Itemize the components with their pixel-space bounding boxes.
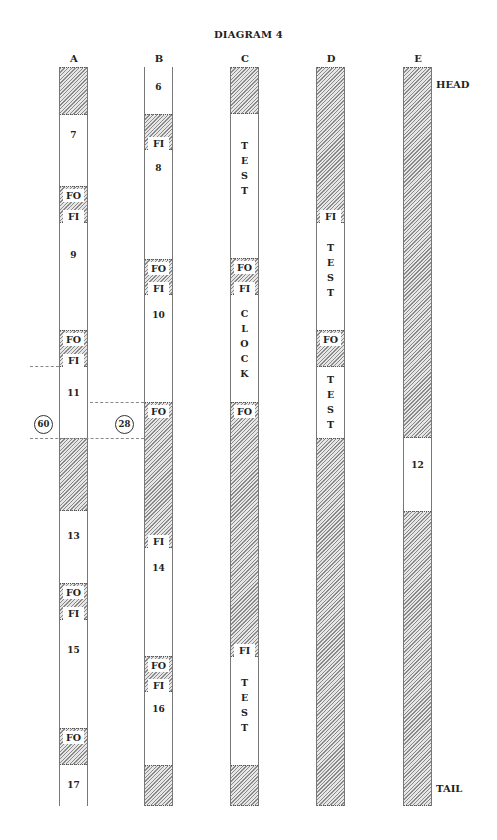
hatched-segment: FOFI [231,258,258,295]
blank-segment: 11 [60,367,87,438]
blank-segment: 17 [60,765,87,806]
circled-number: 60 [34,415,53,434]
hatched-segment [231,765,258,806]
tag-fi: FI [63,354,84,367]
letter: T [231,138,258,153]
letter: T [317,240,344,255]
letter: S [231,168,258,183]
blank-segment: 16 [145,692,172,765]
vertical-word-test: TEST [317,372,344,432]
letter: T [317,285,344,300]
hatched-segment: FI [317,67,344,223]
letter: E [317,255,344,270]
column-d: FITESTFOTEST [316,67,345,806]
hatched-segment: FOFI [60,330,87,367]
letter: C [231,306,258,321]
diagram-title: DIAGRAM 4 [0,29,497,40]
vertical-word-clock: CLOCK [231,306,258,381]
letter: E [317,387,344,402]
hatched-segment: FI [145,114,172,150]
hatched-segment: FOFI [145,402,172,548]
letter: S [317,270,344,285]
hatched-segment [145,765,172,806]
blank-segment: TEST [231,657,258,765]
tag-fi: FI [148,282,169,295]
side-label-tail: TAIL [436,783,462,794]
side-label-head: HEAD [436,79,470,90]
blank-segment: 8 [145,150,172,259]
segment-number: 16 [145,704,172,714]
tag-fo: FO [63,333,84,346]
segment-number: 8 [145,163,172,173]
tag-fi: FI [148,679,169,692]
hatched-segment: FO [317,330,344,367]
letter: T [231,183,258,198]
segment-number: 6 [145,82,172,92]
column-b: 6FI8FOFI10FOFI14FOFI16 [144,67,173,806]
tag-fo: FO [148,659,169,672]
letter: T [317,417,344,432]
dashed-guide-line [30,366,59,367]
tag-fi: FI [234,282,255,295]
hatched-segment [60,67,87,115]
hatched-segment: FOFI [60,583,87,620]
segment-number: 9 [60,250,87,260]
segment-number: 10 [145,310,172,320]
tag-fo: FO [148,262,169,275]
tag-fi: FI [148,137,169,150]
hatched-segment: FOFI [145,259,172,295]
column-label-e: E [403,53,433,64]
tag-fo: FO [320,333,341,346]
vertical-word-test: TEST [317,240,344,300]
dashed-guide-line [30,438,144,439]
letter: T [231,720,258,735]
blank-segment: 15 [60,620,87,728]
letter: T [231,675,258,690]
tag-fi: FI [63,607,84,620]
blank-segment: TEST [317,223,344,330]
letter: O [231,336,258,351]
column-e: 12 [403,67,432,806]
column-label-c: C [230,53,260,64]
letter: T [317,372,344,387]
tag-fi: FI [63,210,84,223]
tag-fo: FO [234,405,255,418]
blank-segment: 10 [145,295,172,402]
circled-number: 28 [115,415,134,434]
hatched-segment [404,67,431,438]
segment-number: 11 [60,388,87,398]
blank-segment: TEST [317,367,344,438]
tag-fo: FO [63,586,84,599]
blank-segment: 14 [145,548,172,656]
blank-segment: 7 [60,115,87,186]
vertical-word-test: TEST [231,138,258,198]
tag-fo: FO [234,261,255,274]
hatched-segment [231,67,258,114]
letter: K [231,366,258,381]
column-c: TESTFOFICLOCKFOFITEST [230,67,259,806]
blank-segment: 9 [60,223,87,330]
blank-segment: 13 [60,511,87,583]
dashed-guide-line [90,402,144,403]
column-label-b: B [144,53,174,64]
segment-number: 15 [60,645,87,655]
tag-fo: FO [63,189,84,202]
tag-fi: FI [148,535,169,548]
blank-segment: TEST [231,114,258,258]
column-a: 7FOFI9FOFI1113FOFI15FO17 [59,67,88,806]
letter: S [231,705,258,720]
hatched-segment: FO [60,728,87,765]
letter: L [231,321,258,336]
segment-number: 12 [404,460,431,470]
hatched-segment: FOFI [60,186,87,223]
letter: E [231,153,258,168]
tag-fi: FI [234,644,255,657]
blank-segment: 12 [404,438,431,511]
segment-number: 7 [60,130,87,140]
segment-number: 13 [60,531,87,541]
hatched-segment: FOFI [231,402,258,657]
hatched-segment [404,511,431,806]
hatched-segment [60,438,87,511]
vertical-word-test: TEST [231,675,258,735]
tag-fo: FO [63,731,84,744]
